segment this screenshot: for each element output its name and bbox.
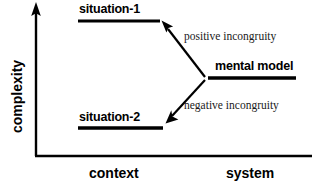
complexity-incongruity-diagram: situation-1 situation-2 mental model pos…	[0, 0, 320, 189]
situation-1-label: situation-1	[79, 3, 140, 16]
y-axis	[31, 2, 41, 156]
negative-incongruity-label: negative incongruity	[184, 100, 279, 112]
mental-model-label: mental model	[215, 60, 293, 73]
situation-2-label: situation-2	[79, 111, 140, 124]
x-axis-title-system: system	[226, 166, 274, 180]
x-axis-title-context: context	[89, 166, 139, 180]
diagram-canvas	[0, 0, 320, 189]
y-axis-title: complexity	[10, 60, 24, 133]
positive-incongruity-arrow	[162, 21, 206, 78]
positive-incongruity-label: positive incongruity	[184, 31, 276, 43]
